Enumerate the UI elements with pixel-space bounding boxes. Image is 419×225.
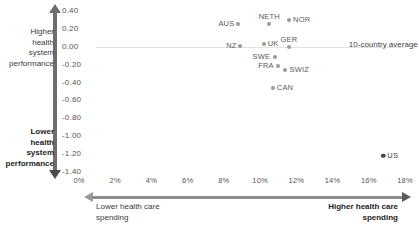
data-point-label: NOR: [293, 15, 310, 24]
x-axis-tick-label: 8%: [218, 176, 229, 185]
data-point[interactable]: [262, 42, 266, 46]
data-point[interactable]: [271, 86, 275, 90]
data-point-label: CAN: [277, 83, 293, 92]
data-point-label: NETH: [259, 12, 280, 21]
y-axis-tick-label: -0.60: [62, 95, 81, 104]
data-point[interactable]: [276, 64, 280, 68]
data-point[interactable]: [283, 68, 287, 72]
reference-line-label: 10-country average: [349, 40, 418, 49]
data-point-label: NZ: [226, 41, 236, 50]
x-axis-tick-label: 4%: [146, 176, 157, 185]
y-axis-tick-label: 0.40: [62, 6, 78, 15]
data-point-label: SWIZ: [289, 65, 309, 74]
data-point-label: AUS: [218, 19, 234, 28]
data-point-label: UK: [268, 39, 279, 48]
x-axis-tick-label: 14%: [325, 176, 341, 185]
y-axis-tick-label: -0.20: [62, 60, 81, 69]
data-point-label: US: [387, 151, 398, 160]
data-point-label: FRA: [258, 61, 274, 70]
x-axis-tick-label: 2%: [110, 176, 121, 185]
y-axis-tick-label: -1.00: [62, 131, 81, 140]
data-point[interactable]: [287, 45, 291, 49]
y-axis-tick-label: -1.40: [62, 167, 81, 176]
data-point-label: SWE: [253, 52, 271, 61]
x-axis-tick-label: 0%: [73, 176, 84, 185]
data-point[interactable]: [381, 154, 386, 159]
y-axis-tick-label: -1.20: [62, 149, 81, 158]
x-axis-tick-label: 16%: [361, 176, 377, 185]
y-axis-tick-label: 0.00: [62, 42, 78, 51]
y-axis-tick-label: -0.40: [62, 78, 81, 87]
data-point[interactable]: [287, 18, 291, 22]
scatter-chart: Higher health system performance Lower h…: [0, 0, 419, 225]
data-point-label: GER: [281, 35, 298, 44]
y-axis-tick-label: 0.20: [62, 24, 78, 33]
x-axis-tick-label: 12%: [289, 176, 305, 185]
data-point[interactable]: [238, 44, 242, 48]
x-axis-tick-label: 10%: [252, 176, 268, 185]
data-point[interactable]: [273, 55, 277, 59]
x-axis-tick-label: 6%: [182, 176, 193, 185]
data-point[interactable]: [236, 22, 240, 26]
data-point[interactable]: [267, 22, 271, 26]
y-axis-tick-label: -0.80: [62, 113, 81, 122]
x-axis-tick-label: 18%: [397, 176, 413, 185]
